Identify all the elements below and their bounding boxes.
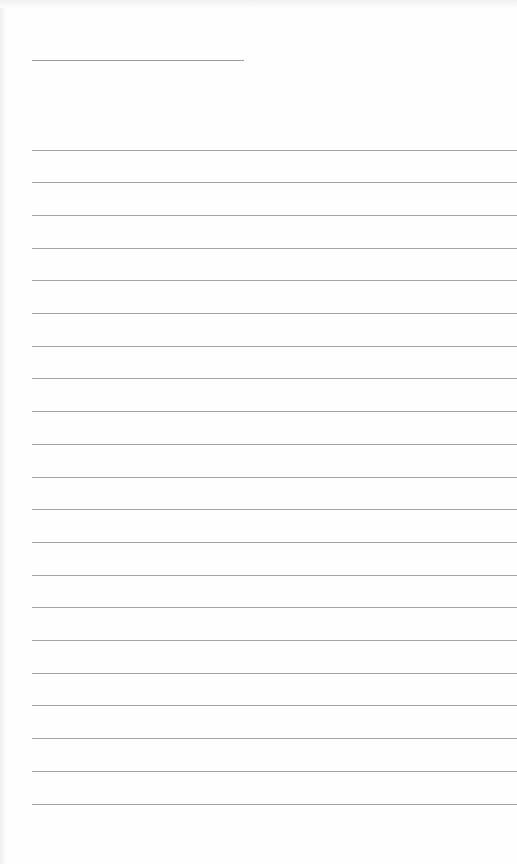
ruled-line [32,738,517,739]
ruled-line [32,673,517,674]
ruled-line [32,411,517,412]
ruled-line [32,280,517,281]
ruled-line [32,444,517,445]
ruled-line [32,378,517,379]
lined-paper [0,0,517,864]
ruled-line [32,215,517,216]
ruled-line [32,509,517,510]
title-line [32,60,244,61]
ruled-line [32,542,517,543]
ruled-line [32,575,517,576]
ruled-line [32,804,517,805]
ruled-line [32,313,517,314]
ruled-line [32,607,517,608]
paper-edge-shadow [0,0,6,864]
paper-top-shadow [0,0,517,8]
ruled-line [32,771,517,772]
ruled-line [32,248,517,249]
ruled-line [32,477,517,478]
ruled-line [32,705,517,706]
ruled-line [32,182,517,183]
ruled-line [32,640,517,641]
ruled-line [32,150,517,151]
ruled-line [32,346,517,347]
